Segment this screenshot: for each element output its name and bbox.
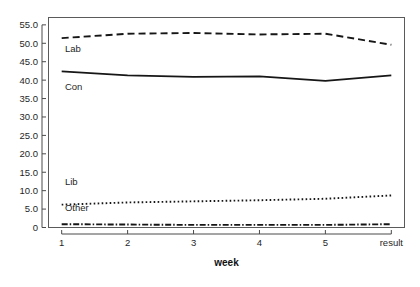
- x-tick-label: 2: [125, 237, 130, 248]
- line-chart: 05.010.015.020.025.030.035.040.045.050.0…: [0, 0, 420, 287]
- y-tick-label: 10.0: [20, 185, 39, 196]
- y-tick-label: 45.0: [20, 56, 39, 67]
- y-tick-label: 55.0: [20, 19, 39, 30]
- y-tick-label: 40.0: [20, 75, 39, 86]
- chart-canvas: 05.010.015.020.025.030.035.040.045.050.0…: [0, 0, 420, 287]
- x-tick-label: 4: [257, 237, 262, 248]
- x-tick-label: result: [380, 237, 404, 248]
- y-tick-label: 25.0: [20, 130, 39, 141]
- series-label-lab: Lab: [65, 43, 81, 54]
- y-tick-label: 5.0: [25, 203, 38, 214]
- series-label-other: Other: [65, 202, 89, 213]
- y-tick-label: 35.0: [20, 93, 39, 104]
- y-tick-label: 0: [33, 222, 38, 233]
- x-tick-label: 1: [59, 237, 64, 248]
- series-label-lib: Lib: [65, 176, 78, 187]
- y-tick-label: 20.0: [20, 148, 39, 159]
- x-axis-title: week: [213, 257, 239, 268]
- series-label-con: Con: [65, 81, 82, 92]
- x-tick-label: 3: [191, 237, 196, 248]
- series-line-other: [62, 224, 392, 225]
- y-tick-label: 15.0: [20, 167, 39, 178]
- y-tick-label: 30.0: [20, 111, 39, 122]
- y-tick-label: 50.0: [20, 38, 39, 49]
- x-tick-label: 5: [323, 237, 328, 248]
